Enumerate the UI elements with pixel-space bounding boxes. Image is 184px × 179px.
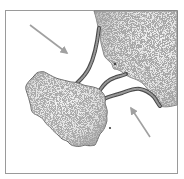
tombolo-diagram xyxy=(0,0,184,179)
rock-dot xyxy=(114,63,116,65)
rock-dot xyxy=(109,127,111,129)
